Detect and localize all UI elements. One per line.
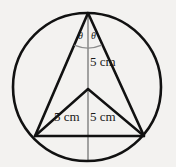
angle-label-theta-left: θ	[78, 31, 83, 41]
length-label-radius-left: 5 cm	[54, 110, 80, 123]
length-label-radius-right: 5 cm	[90, 110, 116, 123]
circumscribed-circle	[13, 13, 161, 161]
geometry-canvas	[0, 0, 176, 167]
angle-label-theta-right: θ	[91, 31, 96, 41]
length-label-radius-vertical: 5 cm	[90, 55, 116, 68]
geometry-figure: θ θ 5 cm 5 cm 5 cm	[0, 0, 176, 167]
